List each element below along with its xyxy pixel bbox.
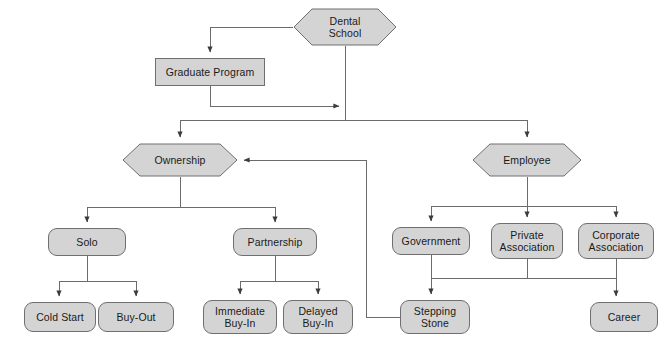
node-cold-start[interactable]: Cold Start — [24, 302, 96, 332]
flowchart-diagram: Dental School Graduate Program Ownership… — [0, 0, 667, 356]
node-label: Dental School — [326, 15, 365, 39]
edge-dental-school-to-graduate-program — [210, 27, 293, 52]
node-graduate-program[interactable]: Graduate Program — [155, 58, 265, 86]
node-corporate-association[interactable]: Corporate Association — [578, 223, 654, 259]
node-employee[interactable]: Employee — [472, 143, 582, 177]
node-ownership[interactable]: Ownership — [122, 143, 238, 177]
node-label: Stepping Stone — [411, 305, 459, 329]
node-immediate-buy-in[interactable]: Immediate Buy-In — [203, 300, 277, 334]
node-label: Partnership — [245, 236, 306, 248]
node-partnership[interactable]: Partnership — [233, 228, 317, 256]
node-career[interactable]: Career — [590, 302, 658, 332]
node-label: Cold Start — [33, 311, 87, 323]
node-label: Employee — [500, 154, 554, 166]
node-label: Solo — [73, 236, 100, 248]
node-label: Graduate Program — [163, 66, 258, 78]
node-buy-out[interactable]: Buy-Out — [98, 302, 174, 332]
node-label: Career — [605, 311, 644, 323]
node-private-association[interactable]: Private Association — [491, 223, 563, 259]
node-solo[interactable]: Solo — [48, 228, 126, 256]
edge-graduate-program-to-trunk — [210, 86, 339, 106]
node-label: Delayed Buy-In — [295, 305, 340, 329]
node-delayed-buy-in[interactable]: Delayed Buy-In — [283, 300, 353, 334]
node-government[interactable]: Government — [392, 227, 470, 255]
node-stepping-stone[interactable]: Stepping Stone — [400, 300, 470, 334]
node-label: Corporate Association — [586, 229, 647, 253]
node-label: Buy-Out — [113, 311, 158, 323]
node-label: Ownership — [151, 154, 208, 166]
node-label: Government — [399, 235, 464, 247]
node-label: Private Association — [497, 229, 558, 253]
node-label: Immediate Buy-In — [212, 305, 268, 329]
node-dental-school[interactable]: Dental School — [293, 8, 397, 46]
